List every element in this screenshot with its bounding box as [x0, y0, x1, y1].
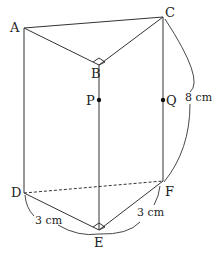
label-F: F — [165, 184, 174, 199]
measure-DE: 3 cm — [35, 214, 63, 227]
hidden-edge-DF — [24, 181, 163, 193]
measure-CF: 8 cm — [185, 91, 213, 104]
edge-BC — [99, 17, 163, 65]
label-C: C — [165, 5, 175, 20]
arc-8cm-bottom — [164, 104, 190, 182]
label-E: E — [94, 235, 104, 250]
prism-diagram: A B C D E F P Q 8 cm 3 cm 3 cm — [0, 0, 218, 253]
label-P: P — [86, 93, 95, 108]
point-P — [97, 98, 101, 102]
label-B: B — [91, 66, 101, 81]
arc-EF-right — [154, 186, 160, 205]
label-A: A — [9, 20, 20, 35]
label-D: D — [11, 185, 21, 200]
arc-DE-left — [25, 195, 34, 216]
label-Q: Q — [166, 93, 177, 108]
measure-EF: 3 cm — [137, 206, 165, 219]
arc-EF-left — [99, 222, 140, 234]
edge-AC — [24, 17, 163, 28]
arc-8cm-top — [165, 19, 194, 92]
edge-AB — [24, 28, 99, 65]
point-Q — [161, 98, 165, 102]
